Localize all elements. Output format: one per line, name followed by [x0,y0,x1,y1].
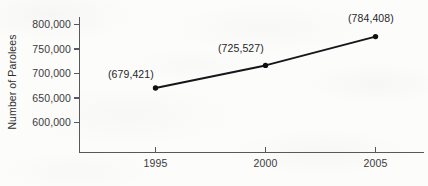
data-point-2000 [263,63,268,68]
data-label-2000: (725,527) [218,42,264,54]
parolees-line-chart: Number of Parolees 800,000 750,000 700,0… [0,0,428,186]
y-tick-label-650000: 650,000 [14,92,71,104]
data-label-1995: (679,421) [108,68,154,80]
x-axis-ticks [156,147,376,153]
y-axis-ticks [74,25,80,123]
y-tick-label-700000: 700,000 [14,67,71,79]
x-tick-label-2005: 2005 [350,157,401,169]
parolees-trend-line [156,37,376,88]
data-point-2005 [373,34,378,39]
y-tick-label-600000: 600,000 [14,116,71,128]
y-tick-label-800000: 800,000 [14,18,71,30]
data-point-1995 [153,85,158,90]
x-tick-label-2000: 2000 [240,157,291,169]
data-label-2005: (784,408) [348,12,394,24]
y-tick-label-750000: 750,000 [14,43,71,55]
x-tick-label-1995: 1995 [130,157,181,169]
